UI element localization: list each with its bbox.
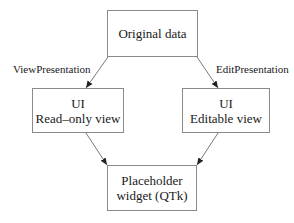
node-label-line1: Placeholder xyxy=(121,173,182,188)
edge-label-edit-presentation: EditPresentation xyxy=(216,63,289,75)
edge-editable-to-placeholder xyxy=(197,133,218,165)
node-label: Original data xyxy=(118,26,186,41)
node-editable-view: UI Editable view xyxy=(182,88,270,133)
edge-label-view-presentation: ViewPresentation xyxy=(13,63,91,75)
node-label-line1: UI xyxy=(71,96,85,111)
node-label-line2: widget (QTk) xyxy=(116,188,187,203)
node-placeholder-widget: Placeholder widget (QTk) xyxy=(107,165,197,211)
edge-original-to-editable xyxy=(197,57,218,88)
node-label-line2: Editable view xyxy=(190,111,262,126)
node-original-data: Original data xyxy=(107,10,198,57)
edge-readonly-to-placeholder xyxy=(86,133,107,165)
node-label-line2: Read–only view xyxy=(36,111,121,126)
node-readonly-view: UI Read–only view xyxy=(32,88,124,133)
node-label-line1: UI xyxy=(219,96,233,111)
